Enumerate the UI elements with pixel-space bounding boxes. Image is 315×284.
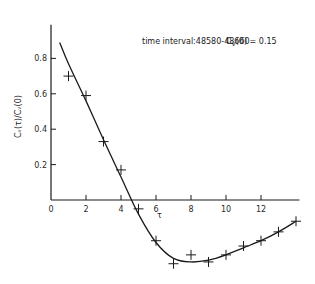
x-tick-label: 4: [118, 205, 123, 214]
plus-marker-icon: [204, 257, 214, 267]
plus-marker-icon: [274, 227, 284, 237]
y-tick-label: 0.2: [34, 161, 47, 170]
plus-marker-icon: [221, 250, 231, 260]
plus-marker-icon: [256, 236, 266, 246]
x-tick-label: 0: [48, 205, 53, 214]
x-tick-label: 10: [221, 205, 231, 214]
y-tick-label: 0.6: [34, 90, 47, 99]
y-tick-label: 0.8: [34, 54, 47, 63]
x-tick-label: 8: [188, 205, 193, 214]
plus-marker-icon: [291, 216, 301, 226]
annotation-value: (0) = 0.15: [236, 37, 277, 46]
y-axis-label: Cᵥ(τ)/Cᵥ(0): [14, 95, 23, 138]
plus-marker-icon: [116, 165, 126, 175]
plus-marker-icon: [134, 204, 144, 214]
fit-curve: [60, 42, 296, 262]
plus-marker-icon: [186, 250, 196, 260]
ticks: 0246810120.20.40.60.8: [34, 54, 266, 214]
x-axis-label: τ: [157, 211, 162, 220]
plus-marker-icon: [99, 137, 109, 147]
x-tick-label: 2: [83, 205, 88, 214]
y-tick-label: 0.4: [34, 125, 47, 134]
x-tick-label: 12: [256, 205, 266, 214]
chart: 0246810120.20.40.60.8 time interval:4858…: [0, 0, 315, 284]
axes: [51, 25, 300, 200]
